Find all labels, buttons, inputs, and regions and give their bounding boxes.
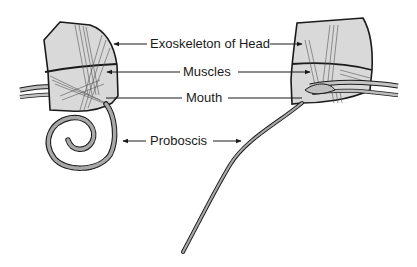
left-head-figure (20, 22, 118, 168)
label-exoskeleton: Exoskeleton of Head (150, 37, 270, 50)
label-mouth: Mouth (186, 91, 222, 104)
label-muscles: Muscles (183, 65, 231, 78)
right-proboscis-extended (183, 103, 302, 252)
label-proboscis: Proboscis (150, 134, 207, 147)
right-head-figure (183, 18, 398, 252)
